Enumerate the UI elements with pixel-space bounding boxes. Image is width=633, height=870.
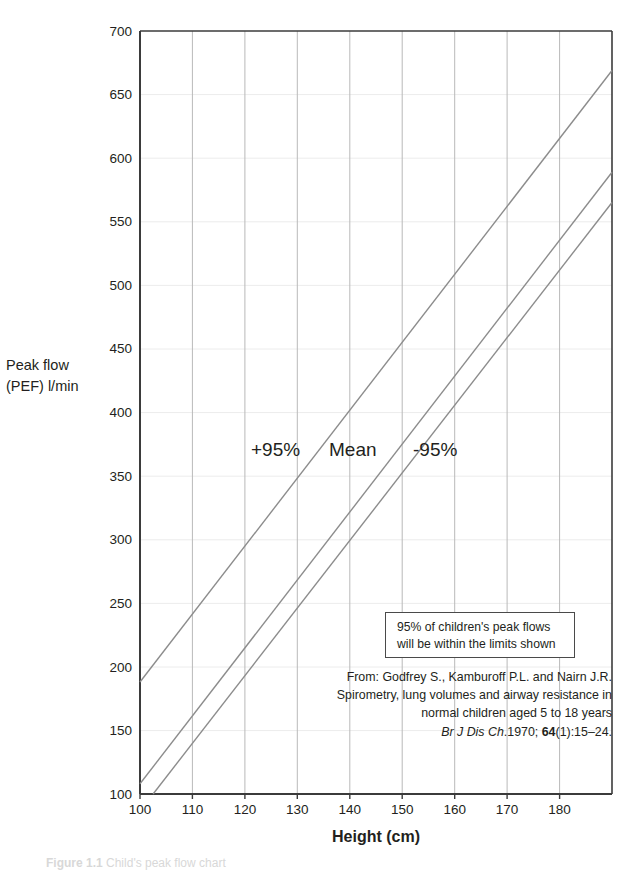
y-axis-title-line1: Peak flow: [6, 355, 102, 376]
citation-issue-pages: (1):15–24.: [556, 725, 612, 739]
citation-line-3: normal children aged 5 to 18 years: [280, 704, 612, 722]
y-tick-label: 400: [88, 406, 132, 420]
series-label-plus95: +95%: [251, 440, 300, 459]
x-tick-label: 130: [275, 803, 319, 817]
y-tick-label: 100: [88, 788, 132, 802]
y-axis-title: Peak flow (PEF) l/min: [6, 355, 102, 397]
citation-year: .1970;: [504, 725, 542, 739]
series-label-minus95: -95%: [413, 440, 457, 459]
x-tick-label: 100: [118, 803, 162, 817]
series-label-mean: Mean: [329, 440, 377, 459]
citation-line-2: Spirometry, lung volumes and airway resi…: [280, 686, 612, 704]
figure-caption: Figure 1.1 Child's peak flow chart: [46, 856, 226, 870]
y-tick-label: 200: [88, 661, 132, 675]
y-tick-label: 350: [88, 470, 132, 484]
y-axis-title-line2: (PEF) l/min: [6, 376, 102, 397]
series-line-plus95: [140, 71, 612, 683]
x-tick-label: 140: [328, 803, 372, 817]
x-tick-label: 180: [538, 803, 582, 817]
y-tick-label: 600: [88, 152, 132, 166]
figure-caption-number: Figure 1.1: [46, 856, 103, 870]
x-tick-label: 160: [433, 803, 477, 817]
y-tick-label: 650: [88, 88, 132, 102]
callout-box: 95% of children's peak flows will be wit…: [385, 612, 575, 658]
x-tick-label: 110: [170, 803, 214, 817]
y-tick-label: 700: [88, 25, 132, 39]
y-tick-label: 450: [88, 342, 132, 356]
citation-volume: 64: [542, 725, 556, 739]
x-axis-title: Height (cm): [140, 828, 612, 846]
x-tick-label: 170: [485, 803, 529, 817]
y-tick-label: 500: [88, 279, 132, 293]
y-tick-label: 550: [88, 215, 132, 229]
callout-line-1: 95% of children's peak flows: [397, 619, 574, 636]
figure-caption-text: Child's peak flow chart: [106, 856, 226, 870]
y-tick-label: 300: [88, 533, 132, 547]
y-tick-label: 250: [88, 597, 132, 611]
citation-reference: Br J Dis Ch.1970; 64(1):15–24.: [280, 723, 612, 741]
x-tick-label: 120: [223, 803, 267, 817]
citation-line-1: From: Godfrey S., Kamburoff P.L. and Nai…: [280, 668, 612, 686]
citation-journal: Br J Dis Ch: [441, 725, 504, 739]
source-citation: From: Godfrey S., Kamburoff P.L. and Nai…: [280, 668, 612, 741]
y-tick-label: 150: [88, 724, 132, 738]
x-tick-label: 150: [380, 803, 424, 817]
callout-line-2: will be within the limits shown: [397, 636, 574, 653]
